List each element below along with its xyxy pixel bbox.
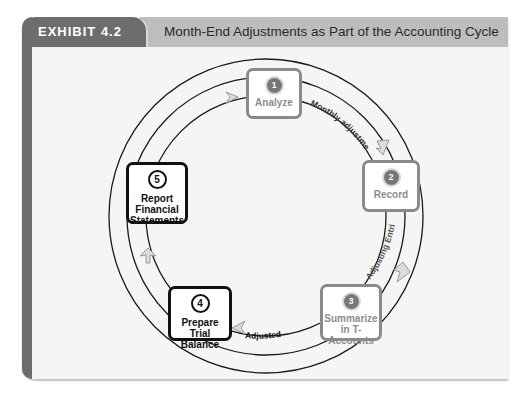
step-label-line-2: Trial Balance bbox=[171, 328, 229, 350]
step-label-line-2: Financial bbox=[129, 204, 185, 215]
step-label: Record bbox=[365, 189, 417, 200]
step-prepare-trial-balance: 4 Prepare Trial Balance bbox=[168, 286, 232, 341]
arc-label-monthly-adjustments: Monthly adjustments bbox=[0, 0, 372, 152]
step-label-line-1: Summarize bbox=[323, 313, 379, 324]
step-label-line-1: Report bbox=[129, 193, 185, 204]
step-report-financial-statements: 5 Report Financial Statements bbox=[126, 162, 188, 224]
step-label-line-1: Prepare bbox=[171, 317, 229, 328]
step-label-line-3: Statements bbox=[129, 215, 185, 226]
step-number-badge: 1 bbox=[267, 78, 282, 93]
arc-label-adjusting-entries: Adjusting Entries bbox=[0, 0, 397, 281]
step-number-badge: 5 bbox=[148, 170, 167, 189]
step-label: Analyze bbox=[249, 97, 299, 108]
step-analyze: 1 Analyze bbox=[246, 68, 302, 119]
step-summarize: 3 Summarize in T-Accounts bbox=[320, 284, 382, 341]
arc-label-adjusted: Adjusted bbox=[245, 329, 282, 341]
step-label-line-2: in T-Accounts bbox=[323, 324, 379, 346]
arrow-icon bbox=[140, 248, 156, 263]
step-number-badge: 3 bbox=[344, 294, 359, 309]
step-number-badge: 2 bbox=[384, 170, 399, 185]
cycle-diagram: Monthly adjustments Adjusting Entries Ad… bbox=[0, 0, 531, 395]
step-number-badge: 4 bbox=[191, 294, 210, 313]
step-record: 2 Record bbox=[362, 160, 420, 212]
